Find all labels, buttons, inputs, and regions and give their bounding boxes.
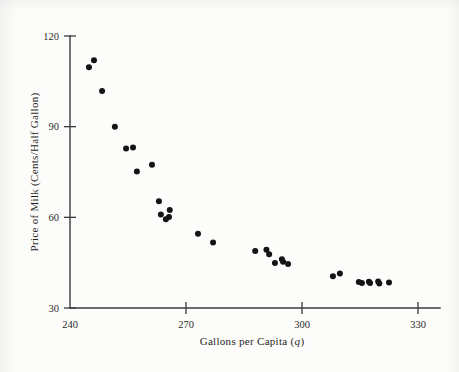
x-tick-label-330: 330 bbox=[410, 319, 426, 330]
data-point bbox=[195, 231, 201, 237]
data-point bbox=[158, 212, 164, 218]
data-point bbox=[210, 239, 216, 245]
data-point bbox=[330, 273, 336, 279]
data-point bbox=[167, 207, 173, 213]
data-point bbox=[149, 162, 155, 168]
data-point bbox=[99, 88, 105, 94]
y-tick-label-120: 120 bbox=[43, 31, 59, 42]
figure-page: 306090120 240270300330 Gallons per Capit… bbox=[0, 0, 459, 372]
data-point bbox=[86, 64, 92, 70]
data-point bbox=[91, 57, 97, 63]
data-point bbox=[359, 280, 365, 286]
y-axis-tick-labels: 306090120 bbox=[43, 31, 59, 314]
x-axis-title: Gallons per Capita (q) bbox=[200, 335, 305, 348]
data-point bbox=[130, 145, 136, 151]
axes-group bbox=[70, 36, 440, 308]
x-axis-tick-labels: 240270300330 bbox=[62, 319, 426, 330]
data-point bbox=[112, 124, 118, 130]
data-point bbox=[367, 280, 373, 286]
data-point bbox=[134, 168, 140, 174]
data-point bbox=[156, 198, 162, 204]
data-point bbox=[285, 261, 291, 267]
y-tick-label-30: 30 bbox=[49, 303, 60, 314]
data-point bbox=[266, 251, 272, 257]
data-points-group bbox=[86, 57, 392, 286]
x-tick-label-270: 270 bbox=[178, 319, 194, 330]
data-point bbox=[163, 216, 169, 222]
x-axis-title-text: Gallons per Capita bbox=[200, 335, 288, 347]
chart-svg: 306090120 240270300330 Gallons per Capit… bbox=[0, 0, 459, 372]
y-tick-label-90: 90 bbox=[49, 121, 60, 132]
scatter-plot: 306090120 240270300330 Gallons per Capit… bbox=[0, 0, 459, 372]
y-axis-title: Price of Milk (Cents/Half Gallon) bbox=[28, 92, 41, 251]
data-point bbox=[272, 260, 278, 266]
x-tick-label-240: 240 bbox=[62, 319, 78, 330]
data-point bbox=[386, 280, 392, 286]
x-tick-label-300: 300 bbox=[294, 319, 310, 330]
y-tick-label-60: 60 bbox=[49, 212, 60, 223]
data-point bbox=[123, 145, 129, 151]
data-point bbox=[252, 248, 258, 254]
data-point bbox=[337, 271, 343, 277]
data-point bbox=[376, 281, 382, 287]
